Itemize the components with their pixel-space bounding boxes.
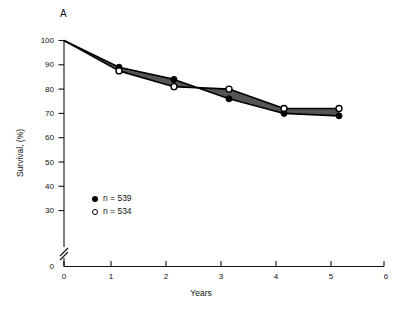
y-tick-label-50: 50: [28, 158, 54, 167]
x-tick-label-6: 6: [376, 272, 396, 281]
plot-area: [0, 0, 402, 314]
y-tick-label-70: 70: [28, 109, 54, 118]
survival-curve-filled: [64, 41, 339, 116]
data-point-open-year-3: [226, 86, 232, 92]
data-point-open-year-5: [336, 106, 342, 112]
y-tick-label-90: 90: [28, 60, 54, 69]
y-axis-origin-label: 0: [28, 262, 54, 271]
legend-entry-open: n = 534: [92, 205, 132, 218]
data-point-open-year-1: [116, 68, 122, 74]
legend: n = 539 n = 534: [92, 192, 132, 218]
open-circle-icon: [92, 206, 103, 217]
y-axis-title: Survival, (%): [15, 103, 25, 203]
data-point-filled-year-5: [336, 113, 342, 119]
y-tick-label-40: 40: [28, 182, 54, 191]
y-tick-label-80: 80: [28, 85, 54, 94]
x-tick-label-3: 3: [211, 272, 231, 281]
data-point-open-year-4: [281, 106, 287, 112]
y-tick-label-60: 60: [28, 133, 54, 142]
data-point-filled-year-2: [171, 76, 177, 82]
x-tick-label-1: 1: [101, 272, 121, 281]
x-tick-label-0: 0: [54, 272, 74, 281]
x-tick-label-5: 5: [321, 272, 341, 281]
legend-label-filled: n = 539: [103, 192, 132, 205]
y-tick-label-100: 100: [28, 36, 54, 45]
x-tick-label-2: 2: [156, 272, 176, 281]
survival-band: [64, 41, 339, 116]
axis-lines: [64, 41, 384, 267]
x-axis-title: Years: [0, 288, 402, 298]
filled-circle-icon: [92, 193, 103, 204]
survival-chart-figure: A Survival, (%) Years 100 90 80 70 60 50…: [0, 0, 402, 314]
data-point-open-year-2: [171, 84, 177, 90]
survival-curve-open: [64, 41, 339, 109]
y-tick-label-30: 30: [28, 206, 54, 215]
legend-label-open: n = 534: [103, 205, 132, 218]
y-axis-ticks: [59, 41, 65, 211]
legend-entry-filled: n = 539: [92, 192, 132, 205]
panel-label: A: [60, 8, 67, 19]
x-tick-label-4: 4: [266, 272, 286, 281]
x-axis-ticks: [64, 261, 384, 267]
series-layer: [64, 41, 342, 119]
data-point-filled-year-3: [226, 96, 232, 102]
